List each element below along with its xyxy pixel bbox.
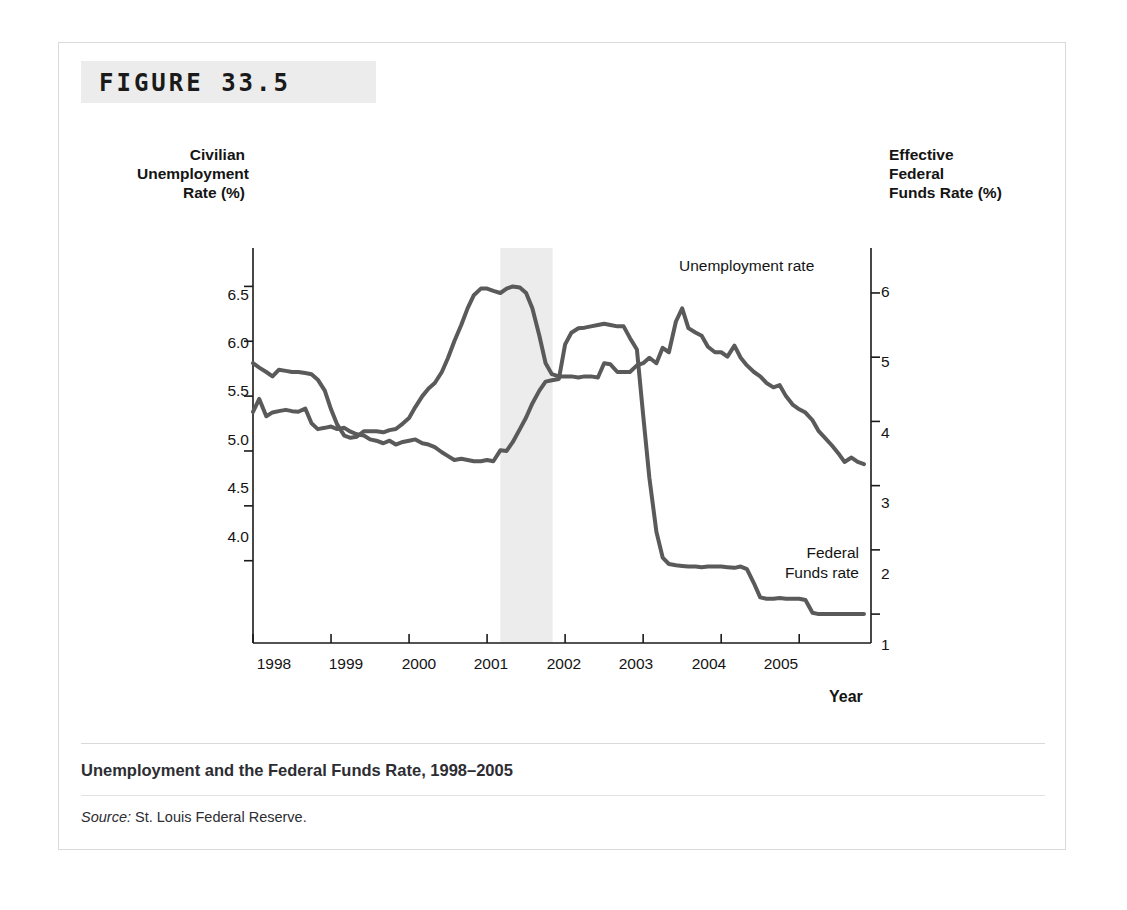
right-axis-ticks (871, 293, 880, 614)
figure-caption: Unemployment and the Federal Funds Rate,… (81, 761, 513, 780)
chart-svg (59, 43, 1067, 743)
chart-plot-area: Civilian Unemployment Rate (%) Effective… (59, 43, 1067, 743)
federal-funds-rate-line (253, 324, 864, 614)
source-value: St. Louis Federal Reserve. (131, 809, 307, 825)
left-axis-ticks (244, 286, 253, 560)
figure-source: Source: St. Louis Federal Reserve. (81, 809, 307, 825)
caption-divider-lower (81, 795, 1045, 796)
figure-frame: FIGURE 33.5 Civilian Unemployment Rate (… (58, 42, 1066, 850)
caption-divider (81, 743, 1045, 744)
axis-lines (253, 248, 871, 643)
source-label: Source: (81, 809, 131, 825)
figure-page: FIGURE 33.5 Civilian Unemployment Rate (… (0, 0, 1127, 910)
